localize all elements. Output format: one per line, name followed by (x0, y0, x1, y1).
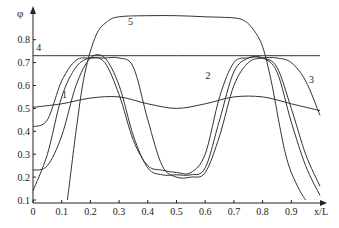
x-tick-label: 0 (31, 206, 36, 217)
curve-label-5: 5 (128, 16, 133, 27)
x-tick-label: 0.6 (199, 206, 212, 217)
curves (33, 16, 320, 200)
y-tick-label: 0.7 (18, 57, 31, 68)
y-tick-label: 0.8 (18, 34, 31, 45)
curve-2 (33, 55, 320, 187)
x-tick-label: 0.7 (228, 206, 241, 217)
y-axis-label: φ (17, 7, 23, 19)
y-tick-label: 0.5 (18, 103, 31, 114)
x-tick-label: 0.1 (55, 206, 68, 217)
y-tick-label: 0.3 (18, 149, 31, 160)
x-tick-label: 0.4 (142, 206, 155, 217)
y-tick-label: 0.2 (18, 172, 31, 183)
x-tick-label: 0.8 (256, 206, 269, 217)
curve-label-4: 4 (36, 42, 41, 53)
curve-label-3: 3 (309, 74, 314, 85)
curve-label-2: 2 (206, 70, 211, 81)
x-tick-label: 0.3 (113, 206, 126, 217)
y-tick-label: 0.4 (18, 126, 31, 137)
y-tick-label: 0.1 (18, 195, 31, 206)
curve-3 (33, 57, 320, 178)
axes (30, 6, 327, 206)
chart-svg: 00.10.20.30.40.50.60.70.80.9 0.10.20.30.… (0, 0, 339, 228)
x-tick-label: 0.5 (170, 206, 183, 217)
line-chart: 00.10.20.30.40.50.60.70.80.9 0.10.20.30.… (0, 0, 339, 228)
x-tick-label: 0.9 (285, 206, 298, 217)
x-tick-label: 0.2 (84, 206, 97, 217)
y-axis-arrow-icon (30, 6, 36, 14)
x-axis-label: x/L (314, 206, 328, 217)
curve-label-1: 1 (62, 89, 67, 100)
y-tick-label: 0.6 (18, 80, 31, 91)
